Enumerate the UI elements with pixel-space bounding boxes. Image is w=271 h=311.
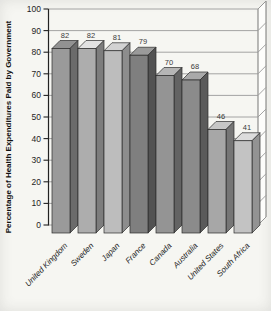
- y-tick-label-30: 30: [32, 155, 42, 165]
- y-axis-title: Percentage of Health Expenditures Paid b…: [4, 20, 13, 233]
- bar-front-face: [78, 49, 96, 234]
- bar-united-states: 46: [208, 112, 234, 234]
- bar-value-label: 81: [113, 33, 121, 42]
- scanned-textbook-figure: 0102030405060708090100 8282817970684641 …: [0, 0, 271, 311]
- y-tick-label-60: 60: [32, 90, 42, 100]
- bar-side-face: [200, 72, 208, 233]
- y-tick-label-100: 100: [27, 4, 41, 14]
- bar-side-face: [148, 47, 156, 233]
- bar-value-label: 82: [61, 31, 69, 40]
- bar-france: 79: [130, 37, 156, 233]
- bar-value-label: 82: [87, 31, 95, 40]
- x-label-france: France: [124, 241, 148, 266]
- bar-sweden: 82: [78, 31, 104, 234]
- y-tick-label-40: 40: [32, 134, 42, 144]
- y-tick-label-70: 70: [32, 69, 42, 79]
- bar-front-face: [156, 76, 174, 234]
- bar-side-face: [174, 68, 182, 234]
- bar-side-face: [122, 43, 130, 233]
- x-label-japan: Japan: [99, 241, 122, 264]
- y-tick-label-0: 0: [36, 220, 41, 230]
- bars: 8282817970684641: [52, 31, 260, 234]
- bar-value-label: 68: [191, 62, 199, 71]
- y-axis: 0102030405060708090100: [27, 4, 49, 230]
- bar-side-face: [70, 41, 78, 234]
- bar-chart: 0102030405060708090100 8282817970684641 …: [0, 0, 271, 311]
- y-tick-label-20: 20: [32, 177, 42, 187]
- bar-canada: 70: [156, 58, 182, 234]
- bar-front-face: [52, 49, 70, 234]
- y-tick-label-80: 80: [32, 47, 42, 57]
- bar-front-face: [234, 141, 252, 233]
- bar-united-kingdom: 82: [52, 31, 78, 234]
- bar-side-face: [96, 41, 104, 234]
- bar-front-face: [104, 51, 122, 233]
- bar-side-face: [252, 133, 260, 233]
- x-axis-labels: United KingdomSwedenJapanFranceCanadaAus…: [23, 241, 251, 289]
- bar-front-face: [130, 55, 148, 233]
- x-label-canada: Canada: [147, 241, 173, 268]
- bar-value-label: 70: [165, 58, 173, 67]
- bar-value-label: 41: [243, 123, 251, 132]
- x-label-sweden: Sweden: [69, 241, 96, 268]
- bar-australia: 68: [182, 62, 208, 233]
- bar-value-label: 79: [139, 37, 147, 46]
- bar-front-face: [208, 130, 226, 234]
- bar-side-face: [226, 122, 234, 234]
- x-label-united-kingdom: United Kingdom: [23, 241, 69, 288]
- y-tick-label-90: 90: [32, 26, 42, 36]
- bar-south-africa: 41: [234, 123, 260, 233]
- bar-value-label: 46: [217, 112, 225, 121]
- y-tick-label-10: 10: [32, 198, 42, 208]
- bar-japan: 81: [104, 33, 130, 233]
- bar-front-face: [182, 80, 200, 233]
- y-tick-label-50: 50: [32, 112, 42, 122]
